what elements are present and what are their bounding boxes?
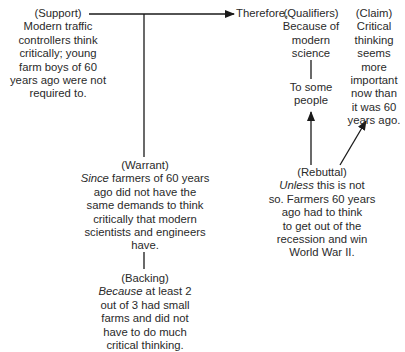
backing-block: (Backing) Because at least 2 out of 3 ha…	[80, 272, 210, 352]
warrant-block: (Warrant) Since farmers of 60 years ago …	[80, 159, 210, 253]
warrant-label: (Warrant)	[80, 159, 210, 172]
support-block: (Support) Modern traffic controllers thi…	[8, 7, 108, 101]
qualifiers-secondary: To some people	[280, 81, 342, 108]
claim-label: (Claim)	[345, 7, 403, 20]
rebuttal-label: (Rebuttal)	[260, 166, 384, 179]
qualifiers-block: (Qualifiers) Because of modern science	[280, 7, 342, 61]
qualifiers-label: (Qualifiers)	[280, 7, 342, 20]
rebuttal-block: (Rebuttal) Unless this is not so. Farmer…	[260, 166, 384, 260]
claim-block: (Claim) Critical thinking seems more imp…	[345, 7, 403, 128]
backing-label: (Backing)	[80, 272, 210, 285]
support-label: (Support)	[8, 7, 108, 20]
